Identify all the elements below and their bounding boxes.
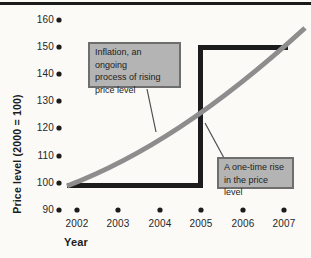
y-tick-130: 130 — [22, 95, 54, 107]
y-tick-120: 120 — [22, 122, 54, 134]
x-tick-2007: 2007 — [264, 218, 304, 230]
one-time-callout-pointer — [205, 123, 224, 158]
y-axis-tick-dots — [56, 17, 61, 212]
y-tick-140: 140 — [22, 68, 54, 80]
y-tick-160: 160 — [22, 14, 54, 26]
y-tick-100: 100 — [22, 177, 54, 189]
y-tick-110: 110 — [22, 150, 54, 162]
price-level-chart: 160 150 140 130 120 110 100 90 2002 2003… — [0, 0, 311, 258]
inflation-callout-pointer — [147, 89, 156, 132]
x-tick-2006: 2006 — [223, 218, 263, 230]
y-tick-90: 90 — [22, 204, 54, 216]
one-time-rise-callout-box: A one-time rise in the price level — [217, 157, 294, 189]
y-axis-title: Price level (2000 = 100) — [11, 94, 23, 214]
x-axis-tick-dots — [74, 207, 286, 212]
x-axis-title: Year — [64, 236, 88, 248]
x-tick-2005: 2005 — [181, 218, 221, 230]
inflation-callout-box: Inflation, an ongoing process of rising … — [88, 42, 181, 88]
x-tick-2003: 2003 — [98, 218, 138, 230]
x-tick-2004: 2004 — [140, 218, 180, 230]
x-tick-2002: 2002 — [57, 218, 97, 230]
y-tick-150: 150 — [22, 41, 54, 53]
